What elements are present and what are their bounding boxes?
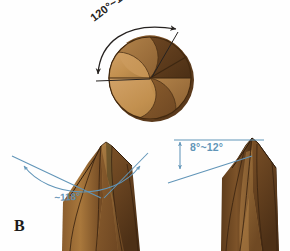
side-view-right-group xyxy=(168,138,279,251)
side-view-left-group xyxy=(12,142,148,251)
figure-artwork xyxy=(0,0,290,251)
drill-bit-geometry-figure: 120°~135° ~118° 8°~12° B xyxy=(0,0,290,251)
end-view-group xyxy=(96,27,194,122)
